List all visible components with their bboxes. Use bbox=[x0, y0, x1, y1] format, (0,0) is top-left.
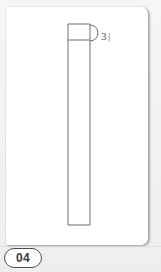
side-lobe-arc-icon bbox=[90, 25, 98, 41]
figure-page: 3| 04 bbox=[0, 0, 161, 272]
figure-number-badge: 04 bbox=[4, 248, 42, 268]
figure-number-text: 04 bbox=[16, 252, 30, 264]
reference-numeral-text: 3 bbox=[101, 30, 107, 42]
technical-drawing bbox=[6, 7, 148, 245]
background-divider bbox=[0, 246, 161, 247]
reference-numeral-label: 3| bbox=[101, 30, 111, 43]
figure-card: 3| bbox=[6, 7, 148, 245]
reference-tick-mark: | bbox=[108, 30, 111, 43]
main-body-rectangle bbox=[68, 24, 90, 225]
